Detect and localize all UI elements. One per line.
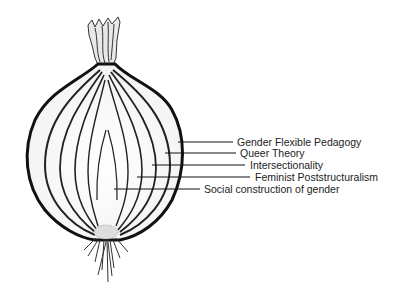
label-feminist-poststructuralism: Feminist Poststructuralism (255, 171, 378, 183)
onion-outer-layer (27, 64, 182, 240)
label-social-construction-of-gender: Social construction of gender (204, 183, 339, 195)
label-queer-theory: Queer Theory (240, 147, 305, 159)
label-intersectionality: Intersectionality (250, 159, 323, 171)
onion-basal-plate (94, 225, 118, 239)
onion-stem-icon (88, 17, 120, 65)
onion-diagram: Gender Flexible Pedagogy Queer Theory In… (0, 0, 395, 300)
onion-roots-icon (84, 238, 128, 282)
onion-illustration (0, 0, 395, 300)
